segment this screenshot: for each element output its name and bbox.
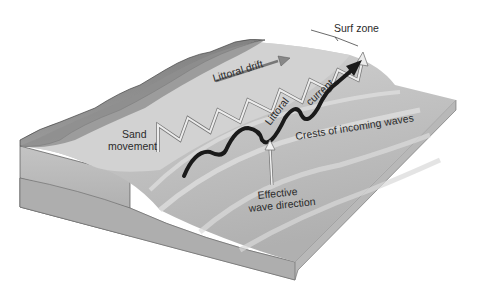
littoral-drift-diagram: Surf zone Littoral drift Sand movement L… (0, 0, 480, 291)
label-sand-movement-1: Sand (122, 128, 147, 140)
label-surf-zone: Surf zone (334, 22, 379, 34)
label-sand-movement-2: movement (108, 140, 157, 152)
